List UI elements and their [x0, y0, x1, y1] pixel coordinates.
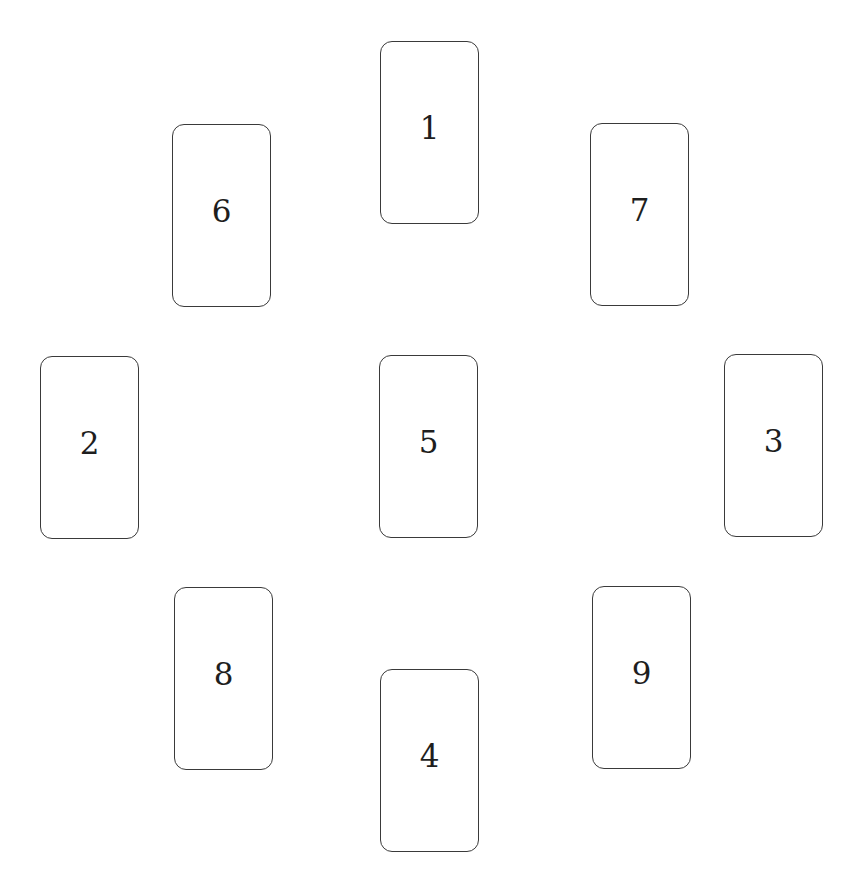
card-number: 3: [764, 426, 784, 457]
card-number: 4: [420, 741, 440, 772]
card-number: 6: [212, 196, 232, 227]
card-number: 2: [80, 428, 100, 459]
card-slot-2: 2: [40, 356, 139, 539]
card-slot-9: 9: [592, 586, 691, 769]
card-slot-8: 8: [174, 587, 273, 770]
card-number: 7: [630, 195, 650, 226]
card-slot-5: 5: [379, 355, 478, 538]
card-number: 9: [632, 658, 652, 689]
card-slot-7: 7: [590, 123, 689, 306]
card-number: 8: [214, 659, 234, 690]
card-number: 1: [420, 113, 440, 144]
card-slot-6: 6: [172, 124, 271, 307]
card-slot-1: 1: [380, 41, 479, 224]
card-slot-3: 3: [724, 354, 823, 537]
card-slot-4: 4: [380, 669, 479, 852]
card-spread: 1 2 3 4 5 6 7 8 9: [0, 0, 862, 883]
card-number: 5: [419, 427, 439, 458]
